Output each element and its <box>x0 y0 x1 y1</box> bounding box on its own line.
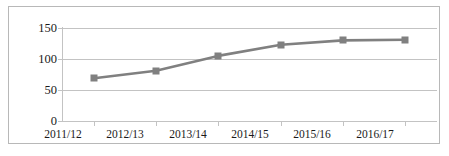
data-point-2014/15 <box>278 41 285 48</box>
series-line-layer <box>9 7 441 145</box>
data-point-2012/13 <box>153 67 160 74</box>
data-point-2015/16 <box>340 37 347 44</box>
data-point-2011/12 <box>91 75 98 82</box>
data-point-2016/17 <box>402 36 409 43</box>
series-line-series-1 <box>94 40 405 78</box>
chart-frame: 150 100 50 0 2011/12 2012/13 2013/14 201… <box>8 6 440 144</box>
data-point-2013/14 <box>215 52 222 59</box>
